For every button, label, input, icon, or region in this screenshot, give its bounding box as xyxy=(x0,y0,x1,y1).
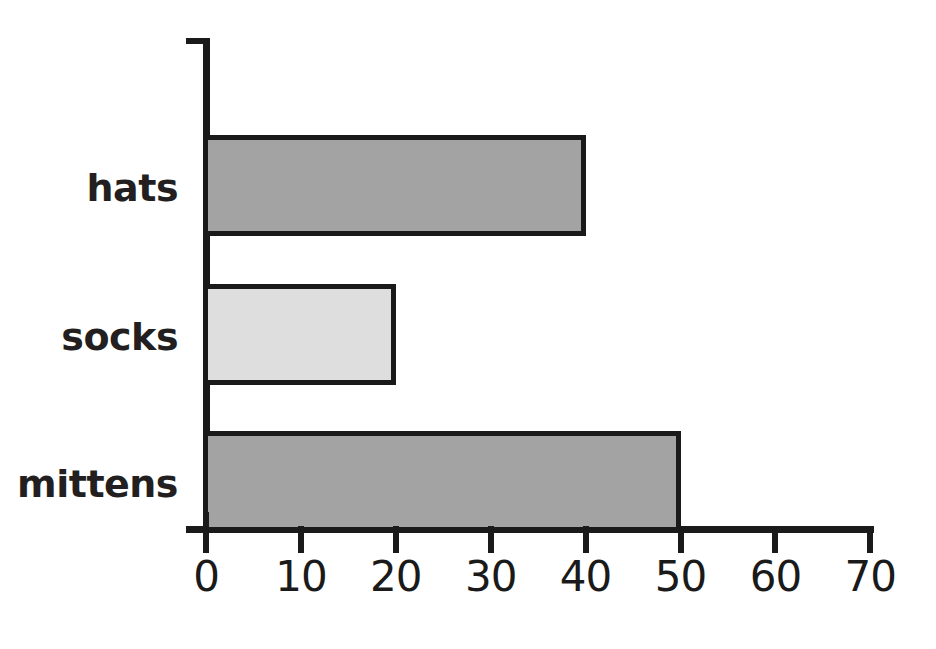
x-tick-0 xyxy=(203,512,209,553)
x-tick-60 xyxy=(772,526,778,553)
x-tick-label-50: 50 xyxy=(636,556,726,598)
x-tick-30 xyxy=(488,526,494,553)
x-tick-10 xyxy=(298,526,304,553)
x-tick-label-20: 20 xyxy=(351,556,441,598)
category-label-mittens: mittens xyxy=(17,465,178,503)
bar-mittens xyxy=(203,431,681,532)
x-tick-label-10: 10 xyxy=(256,556,346,598)
x-tick-70 xyxy=(867,526,873,553)
category-label-hats: hats xyxy=(87,169,178,207)
bar-chart: hatssocksmittens 010203040506070 xyxy=(0,0,936,649)
x-tick-50 xyxy=(678,526,684,553)
bar-hats xyxy=(203,135,586,236)
x-tick-label-30: 30 xyxy=(446,556,536,598)
x-tick-40 xyxy=(583,526,589,553)
x-tick-label-40: 40 xyxy=(541,556,631,598)
x-tick-label-0: 0 xyxy=(161,556,251,598)
x-tick-label-60: 60 xyxy=(730,556,820,598)
x-tick-20 xyxy=(393,526,399,553)
x-tick-label-70: 70 xyxy=(825,556,915,598)
category-label-socks: socks xyxy=(61,318,178,356)
bar-socks xyxy=(203,284,396,385)
